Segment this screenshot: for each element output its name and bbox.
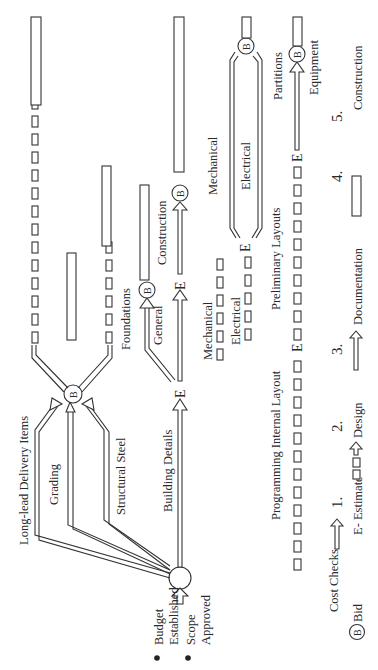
general-label: General [151,305,165,345]
svg-text:E: E [173,281,188,290]
preliminary-label: Preliminary Layouts [269,207,283,310]
construction-bar-long-lead [31,17,41,105]
legend-bid: Bid [351,603,365,622]
budget-label-1: Budget [152,608,166,645]
programming-label: Programming Internal Layout [269,370,283,520]
estimate-node-programming: E [290,343,305,352]
estimate-node-building: E [173,389,188,398]
scope-label-2: Approved [199,594,213,645]
legend-cost-checks: Cost Checks [327,549,341,612]
svg-text:B: B [241,43,252,50]
legend-estimate: E- Estimate [351,476,365,535]
dashed-documentation-left [32,98,38,343]
building-details-label: Building Details [161,430,175,512]
construction-bar-foundations [140,185,149,280]
svg-text:B: B [352,629,363,636]
svg-text:4.: 4. [329,171,345,182]
mep-documentation-path: B [230,17,262,238]
estimate-node-mep: E [238,243,253,252]
mechanical-label-1: Mechanical [201,301,215,360]
partitions-path: B [289,17,305,150]
construction-label: Construction [155,200,169,265]
partitions-label: Partitions [271,52,285,100]
dashed-documentation-right [106,242,112,343]
construction-bar-steel [102,166,111,246]
structural-steel-label: Structural Steel [114,437,128,515]
svg-text:5.: 5. [329,111,345,122]
building-details-path [173,399,187,567]
mechanical-label-2: Mechanical [206,136,220,195]
budget-label-2: Established [167,587,181,645]
svg-text:B: B [68,391,79,398]
estimate-node-preliminary: E [290,153,305,162]
legend: Cost Checks B Bid 1. E- Estimate 2. Desi… [327,45,365,640]
programming-dashed [294,167,301,570]
legend-documentation: Documentation [351,247,365,325]
project-phase-diagram: Budget Established Scope Approved B Long… [0,0,378,670]
electrical-label-1: Electrical [229,297,243,345]
svg-text:3.: 3. [329,344,345,355]
foundations-label: Foundations [119,288,133,350]
grading-label: Grading [47,463,61,505]
svg-text:B: B [292,51,303,58]
svg-text:1.: 1. [329,497,345,508]
equipment-label: Equipment [307,40,321,95]
construction-bar-general [174,17,184,172]
legend-design: Design [351,402,365,438]
general-construction-path: E B [172,17,188,381]
svg-text:2.: 2. [329,421,345,432]
svg-text:B: B [142,287,153,294]
scope-label-1: Scope [184,614,198,645]
construction-bar-grading [67,253,76,340]
long-lead-label: Long-lead Delivery Items [17,416,31,545]
svg-text:B: B [175,190,186,197]
legend-construction: Construction [351,45,365,110]
electrical-label-2: Electrical [239,142,253,190]
